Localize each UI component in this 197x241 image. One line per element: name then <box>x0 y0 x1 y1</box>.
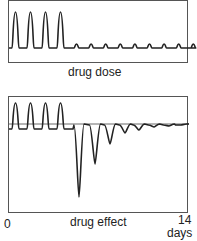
drug-effect-label: drug effect <box>70 215 126 229</box>
drug-effect-plot <box>9 97 189 214</box>
drug-effect-chart <box>8 96 188 213</box>
x-axis-start-label: 0 <box>4 217 11 231</box>
drug-dose-plot <box>9 1 189 64</box>
x-axis-end-label: 14 <box>178 213 191 227</box>
drug-dose-chart <box>8 0 188 63</box>
x-axis-unit-label: days <box>167 226 192 240</box>
drug-dose-label: drug dose <box>68 65 121 79</box>
